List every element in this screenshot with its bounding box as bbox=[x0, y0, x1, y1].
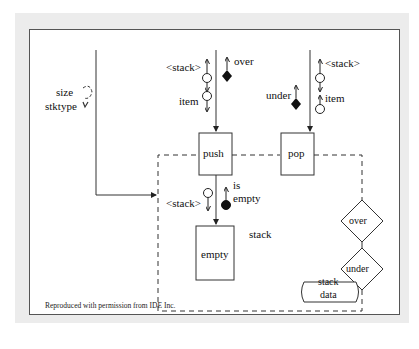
pop-under-flag-label: under bbox=[266, 90, 291, 101]
stack-data-label-2: data bbox=[320, 290, 337, 300]
diagram-canvas bbox=[0, 0, 419, 349]
stack-data-label-1: stack bbox=[318, 277, 339, 287]
under-decision-label: under bbox=[346, 264, 369, 274]
push-stack-couple-label: <stack> bbox=[166, 62, 201, 73]
push-couples bbox=[203, 58, 233, 111]
over-decision-label: over bbox=[349, 216, 367, 226]
empty-couples bbox=[204, 188, 231, 210]
empty-stack-couple-label: <stack> bbox=[166, 198, 201, 209]
push-item-couple-label: item bbox=[179, 96, 199, 107]
stktype-couple-label: stktype bbox=[45, 101, 77, 112]
figure-caption: Reproduced with permission from IDE Inc. bbox=[45, 301, 175, 310]
pop-couples bbox=[291, 60, 325, 114]
is-empty-flag-label-1: is bbox=[233, 180, 240, 191]
pop-stack-couple-label: <stack> bbox=[325, 58, 360, 69]
empty-module-label: empty bbox=[201, 249, 229, 260]
push-over-flag-label: over bbox=[234, 56, 254, 67]
size-couple-label: size bbox=[56, 87, 73, 98]
is-empty-flag-label-2: empty bbox=[233, 193, 261, 204]
invocation-line-left bbox=[96, 50, 156, 195]
flag-diamond-icon bbox=[222, 70, 232, 82]
cluster-label: stack bbox=[249, 229, 272, 240]
push-module-label: push bbox=[203, 148, 224, 159]
init-couple-icon bbox=[83, 86, 92, 107]
pop-item-couple-label: item bbox=[325, 93, 345, 104]
pop-module-label: pop bbox=[288, 148, 305, 159]
flag-diamond-icon bbox=[291, 98, 301, 110]
